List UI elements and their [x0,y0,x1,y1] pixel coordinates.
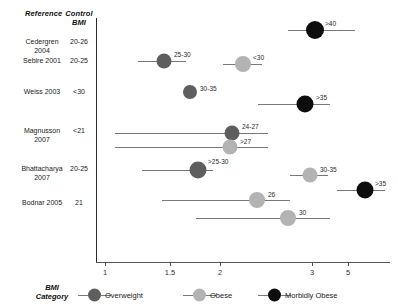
data-point-label: 26 [268,191,275,198]
legend-marker [268,289,281,302]
x-axis-tick [220,262,221,266]
data-point-marker [249,192,265,208]
x-axis-tick-label: 2 [218,268,222,277]
x-axis-line [96,262,390,263]
data-point-marker [280,210,296,226]
legend-dash [258,295,268,296]
legend-title: BMI Category [30,283,74,301]
legend-label: Obese [210,291,232,300]
data-point-label: 30-35 [320,166,337,173]
x-axis-tick-label: 1.5 [165,268,175,277]
data-point-marker [303,168,318,183]
legend-marker [88,289,101,302]
data-point-label: 30-35 [200,85,217,92]
data-point-label: 24-27 [242,123,259,130]
data-point-marker [306,21,324,39]
legend-marker [193,289,206,302]
x-axis-tick-label: 1 [103,268,107,277]
data-point-label: >25-30 [208,158,228,165]
x-axis-tick [105,262,106,266]
legend-dash [183,295,193,296]
forest-plot-figure: Reference Control BMI Cedergren200420-26… [0,0,398,308]
confidence-interval-line [115,147,268,148]
x-axis-tick [312,262,313,266]
data-point-label: 30 [299,209,306,216]
x-axis-tick-label: 5 [346,268,350,277]
confidence-interval-line [258,104,330,105]
legend-label: Overweight [105,291,143,300]
data-point-marker [190,162,207,179]
plot-area: 11.5235 >4025-30<3030-35>3524-27>27>25-3… [0,0,398,308]
data-point-label: 25-30 [174,51,191,58]
x-axis-tick-label: 3 [310,268,314,277]
data-point-marker [297,96,314,113]
legend-label: Morbidly Obese [285,291,338,300]
data-point-label: <30 [253,54,264,61]
data-point-marker [157,54,172,69]
confidence-interval-line [196,218,330,219]
data-point-label: >40 [325,20,336,27]
data-point-marker [183,85,197,99]
data-point-label: >35 [316,94,327,101]
x-axis-tick [170,262,171,266]
confidence-interval-line [162,200,290,201]
reference-line-at-1 [96,18,97,262]
data-point-label: >27 [240,138,251,145]
data-point-marker [223,140,238,155]
legend-title-line2: Category [36,292,69,301]
x-axis-tick [348,262,349,266]
data-point-label: >35 [375,180,386,187]
confidence-interval-line [115,133,268,134]
data-point-marker [357,182,374,199]
legend-dash [78,295,88,296]
data-point-marker [225,126,240,141]
data-point-marker [235,56,251,72]
legend-title-line1: BMI [45,283,59,292]
